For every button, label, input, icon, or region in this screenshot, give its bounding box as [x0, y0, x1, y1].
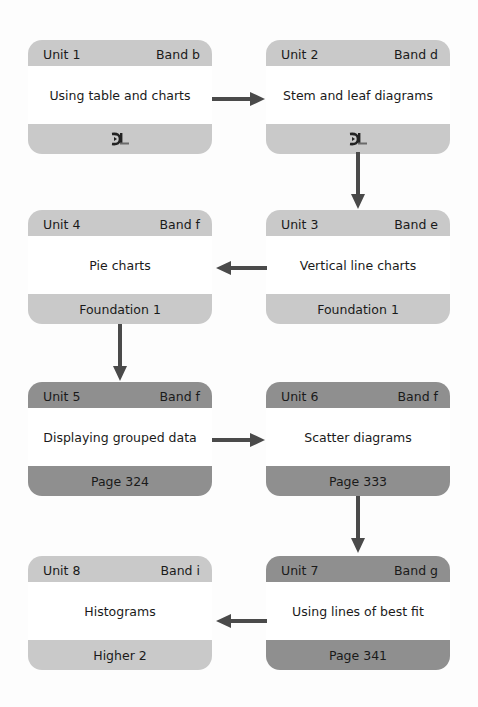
unit-1-header: Unit 1 Band b: [28, 40, 212, 66]
unit-label: Unit 4: [43, 217, 80, 232]
unit-5-title: Displaying grouped data: [28, 408, 212, 466]
unit-label: Unit 8: [43, 563, 80, 578]
dl-logo-icon: [347, 132, 369, 146]
unit-label: Unit 5: [43, 389, 80, 404]
band-label: Band f: [160, 217, 200, 232]
band-label: Band b: [156, 47, 200, 62]
unit-6-header: Unit 6 Band f: [266, 382, 450, 408]
unit-label: Unit 3: [281, 217, 318, 232]
unit-6-footer: Page 333: [266, 466, 450, 496]
unit-4-title: Pie charts: [28, 236, 212, 294]
unit-3-title: Vertical line charts: [266, 236, 450, 294]
unit-3-footer: Foundation 1: [266, 294, 450, 324]
band-label: Band e: [394, 217, 438, 232]
unit-2-title: Stem and leaf diagrams: [266, 66, 450, 124]
unit-1-title: Using table and charts: [28, 66, 212, 124]
arrow-left-icon: [215, 613, 267, 629]
arrow-right-icon: [212, 432, 266, 448]
unit-1-card: Unit 1 Band b Using table and charts: [28, 40, 212, 154]
unit-7-header: Unit 7 Band g: [266, 556, 450, 582]
unit-3-card: Unit 3 Band e Vertical line charts Found…: [266, 210, 450, 324]
band-label: Band d: [394, 47, 438, 62]
unit-4-header: Unit 4 Band f: [28, 210, 212, 236]
unit-8-header: Unit 8 Band i: [28, 556, 212, 582]
unit-2-card: Unit 2 Band d Stem and leaf diagrams: [266, 40, 450, 154]
unit-7-card: Unit 7 Band g Using lines of best fit Pa…: [266, 556, 450, 670]
unit-7-title: Using lines of best fit: [266, 582, 450, 640]
arrow-right-icon: [212, 91, 266, 107]
unit-7-footer: Page 341: [266, 640, 450, 670]
dl-logo-icon: [109, 132, 131, 146]
unit-label: Unit 7: [281, 563, 318, 578]
unit-label: Unit 1: [43, 47, 80, 62]
unit-4-footer: Foundation 1: [28, 294, 212, 324]
band-label: Band i: [160, 563, 200, 578]
arrow-down-icon: [112, 324, 128, 382]
unit-6-card: Unit 6 Band f Scatter diagrams Page 333: [266, 382, 450, 496]
unit-6-title: Scatter diagrams: [266, 408, 450, 466]
arrow-down-icon: [350, 496, 366, 554]
unit-5-header: Unit 5 Band f: [28, 382, 212, 408]
unit-3-header: Unit 3 Band e: [266, 210, 450, 236]
arrow-down-icon: [350, 152, 366, 210]
unit-8-title: Histograms: [28, 582, 212, 640]
unit-label: Unit 6: [281, 389, 318, 404]
unit-8-card: Unit 8 Band i Histograms Higher 2: [28, 556, 212, 670]
band-label: Band f: [398, 389, 438, 404]
unit-label: Unit 2: [281, 47, 318, 62]
band-label: Band g: [394, 563, 438, 578]
unit-5-footer: Page 324: [28, 466, 212, 496]
unit-1-footer: [28, 124, 212, 154]
band-label: Band f: [160, 389, 200, 404]
unit-8-footer: Higher 2: [28, 640, 212, 670]
unit-4-card: Unit 4 Band f Pie charts Foundation 1: [28, 210, 212, 324]
arrow-left-icon: [215, 260, 267, 276]
unit-5-card: Unit 5 Band f Displaying grouped data Pa…: [28, 382, 212, 496]
unit-2-header: Unit 2 Band d: [266, 40, 450, 66]
unit-2-footer: [266, 124, 450, 154]
